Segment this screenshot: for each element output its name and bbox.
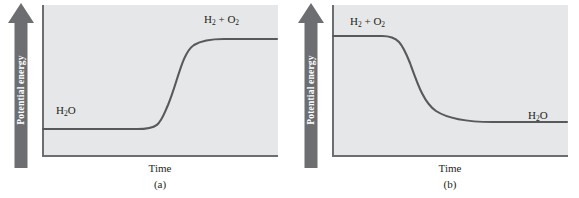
species-label-product-b: H2O xyxy=(528,110,548,123)
species-subscript: 2 xyxy=(212,18,216,27)
energy-diagram-figure: Potential energy H2O H2 + O2 Time (a) xyxy=(0,0,579,198)
up-arrow-icon xyxy=(298,3,324,168)
species-subscript: 2 xyxy=(381,20,385,29)
species-label-reactant-a: H2O xyxy=(56,105,76,118)
potential-energy-arrow: Potential energy xyxy=(8,3,34,168)
panel-caption-a: (a) xyxy=(42,178,278,190)
panel-a: Potential energy H2O H2 + O2 Time (a) xyxy=(0,0,289,198)
species-subscript: 2 xyxy=(358,20,362,29)
panel-b: Potential energy H2 + O2 H2O Time (b) xyxy=(290,0,579,198)
plot-area-b: H2 + O2 H2O xyxy=(332,5,568,157)
x-axis-label-a: Time xyxy=(42,162,278,174)
energy-curve-a xyxy=(42,5,278,157)
species-label-reactant-b: H2 + O2 xyxy=(350,16,385,29)
species-text: H xyxy=(56,104,64,116)
species-subscript: 2 xyxy=(235,18,239,27)
panel-caption-b: (b) xyxy=(332,178,568,190)
species-label-product-a: H2 + O2 xyxy=(204,14,239,27)
plot-area-a: H2O H2 + O2 xyxy=(42,5,278,157)
species-text-tail: O xyxy=(68,104,76,116)
up-arrow-icon xyxy=(8,3,34,168)
x-axis-label-b: Time xyxy=(332,162,568,174)
potential-energy-arrow: Potential energy xyxy=(298,3,324,168)
species-subscript: 2 xyxy=(536,114,540,123)
